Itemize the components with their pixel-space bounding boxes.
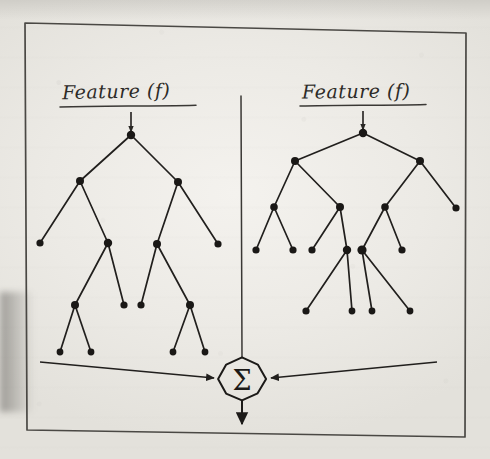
tree-edge xyxy=(157,244,190,305)
tree-edge xyxy=(157,182,178,244)
left-tree-edges xyxy=(40,135,218,352)
tree-edge xyxy=(60,305,75,352)
tree-leaf-node xyxy=(214,240,221,247)
tree-edge xyxy=(306,250,347,311)
tree-edge xyxy=(75,243,108,305)
tree-leaf-node xyxy=(398,246,405,253)
tree-leaf-node xyxy=(289,246,296,253)
tree-edge xyxy=(312,207,340,250)
tree-edge xyxy=(40,181,80,243)
tree-split-node xyxy=(416,157,424,165)
tree-edge xyxy=(178,182,218,244)
tree-split-node xyxy=(291,157,299,165)
tree-edge xyxy=(190,305,205,352)
right-tree-to-sum-arrow xyxy=(271,362,437,378)
tree-split-node xyxy=(343,246,351,254)
right-tree-edges xyxy=(256,133,456,311)
tree-leaf-node xyxy=(369,308,376,315)
tree-edge xyxy=(80,135,131,181)
tree-edge xyxy=(385,161,420,207)
tree-leaf-node xyxy=(170,349,177,356)
tree-leaf-node xyxy=(88,349,95,356)
right-tree-nodes xyxy=(252,129,459,315)
center-divider-line xyxy=(241,96,242,358)
tree-edge xyxy=(173,305,190,352)
tree-leaf-node xyxy=(452,204,459,211)
tree-edge xyxy=(108,243,124,305)
tree-edge xyxy=(274,207,293,250)
tree-split-node xyxy=(336,203,344,211)
tree-edge xyxy=(75,305,91,352)
tree-split-node xyxy=(270,203,278,211)
tree-edge xyxy=(256,207,274,250)
tree-split-node xyxy=(153,240,161,248)
tree-split-node xyxy=(174,178,182,186)
tree-leaf-node xyxy=(137,301,144,308)
ink-layer: Σ xyxy=(0,0,490,459)
tree-split-node xyxy=(71,301,79,309)
sum-node-symbol: Σ xyxy=(232,365,251,396)
right-label-underline xyxy=(300,104,426,106)
tree-leaf-node xyxy=(120,301,127,308)
tree-edge xyxy=(295,161,340,207)
tree-edge xyxy=(347,250,352,311)
diagram-canvas: Feature (f) Feature (f) xyxy=(0,0,490,459)
tree-split-node xyxy=(186,301,194,309)
tree-leaf-node xyxy=(349,308,356,315)
tree-edge xyxy=(141,244,157,305)
tree-edge xyxy=(362,207,385,250)
left-label-underline xyxy=(60,105,196,107)
tree-leaf-node xyxy=(36,239,43,246)
tree-edge xyxy=(362,250,410,311)
tree-edge xyxy=(362,250,372,311)
tree-edge xyxy=(340,207,347,250)
tree-leaf-node xyxy=(252,246,259,253)
left-tree-nodes xyxy=(36,131,221,356)
tree-edge xyxy=(80,181,108,243)
tree-root-node xyxy=(359,129,367,137)
tree-edge xyxy=(385,207,402,250)
tree-edge xyxy=(274,161,295,207)
tree-split-node xyxy=(104,239,112,247)
tree-edge xyxy=(295,133,363,161)
tree-leaf-node xyxy=(308,246,315,253)
tree-split-node xyxy=(381,203,389,211)
tree-edge xyxy=(363,133,420,161)
tree-edge xyxy=(131,135,178,182)
tree-edge xyxy=(420,161,456,208)
tree-leaf-node xyxy=(407,308,414,315)
tree-root-node xyxy=(127,131,135,139)
tree-leaf-node xyxy=(202,349,209,356)
tree-split-node xyxy=(76,177,84,185)
tree-leaf-node xyxy=(302,307,309,314)
tree-leaf-node xyxy=(57,349,64,356)
tree-split-node xyxy=(357,245,366,254)
left-tree-to-sum-arrow xyxy=(40,362,214,378)
